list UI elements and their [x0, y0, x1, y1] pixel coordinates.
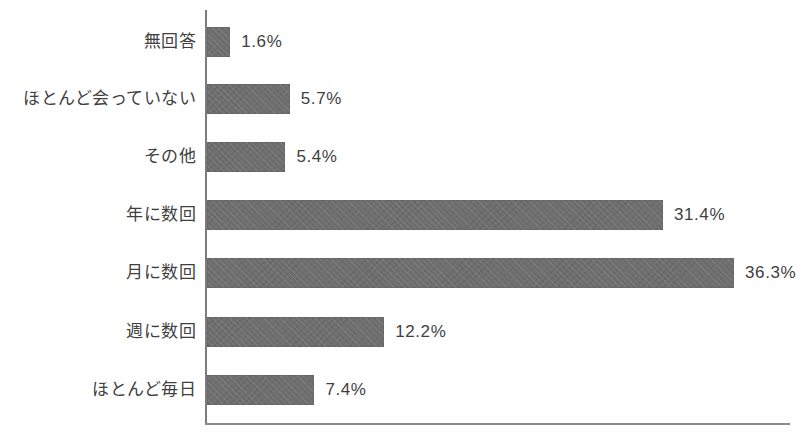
bar-segment	[207, 142, 285, 172]
chart-row: その他 5.4%	[0, 142, 804, 172]
value-label: 7.4%	[325, 375, 366, 405]
bar-segment	[207, 27, 230, 57]
value-label: 5.7%	[301, 84, 342, 114]
category-label: ほとんど会っていない	[23, 84, 196, 114]
category-label: その他	[144, 142, 197, 172]
category-label: 月に数回	[126, 258, 196, 288]
chart-row: 年に数回 31.4%	[0, 200, 804, 230]
value-label: 5.4%	[296, 142, 337, 172]
bar-chart: 無回答 1.6% ほとんど会っていない 5.7% その他 5.4% 年に数回 3…	[0, 0, 804, 438]
bar-segment	[207, 200, 663, 230]
chart-row: ほとんど毎日 7.4%	[0, 375, 804, 405]
chart-row: 週に数回 12.2%	[0, 317, 804, 347]
chart-row: 月に数回 36.3%	[0, 258, 804, 288]
value-label: 12.2%	[395, 317, 446, 347]
value-label: 36.3%	[745, 258, 796, 288]
value-label: 31.4%	[674, 200, 725, 230]
category-label: 週に数回	[126, 317, 196, 347]
bar-segment	[207, 84, 290, 114]
category-label: 無回答	[144, 27, 197, 57]
bar-segment	[207, 317, 384, 347]
chart-row: 無回答 1.6%	[0, 27, 804, 57]
category-label: 年に数回	[126, 200, 196, 230]
chart-row: ほとんど会っていない 5.7%	[0, 84, 804, 114]
category-label: ほとんど毎日	[92, 375, 196, 405]
bar-segment	[207, 258, 734, 288]
value-label: 1.6%	[241, 27, 282, 57]
bar-segment	[207, 375, 314, 405]
x-axis-line	[205, 423, 790, 425]
